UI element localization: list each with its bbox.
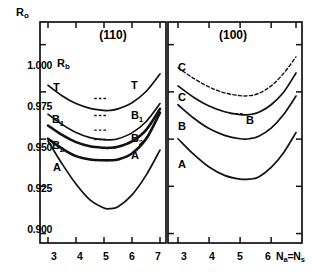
curve-100-A (178, 133, 296, 180)
panel-frame-100 (168, 22, 302, 243)
curve-100-B (178, 96, 296, 139)
plot-canvas (0, 0, 313, 279)
curve-110-T (48, 74, 160, 111)
figure-root: Ro 1.000 0.975 0.950 0.925 0.900 (110) (… (0, 0, 313, 279)
curve-100-C-dashed (178, 57, 296, 96)
